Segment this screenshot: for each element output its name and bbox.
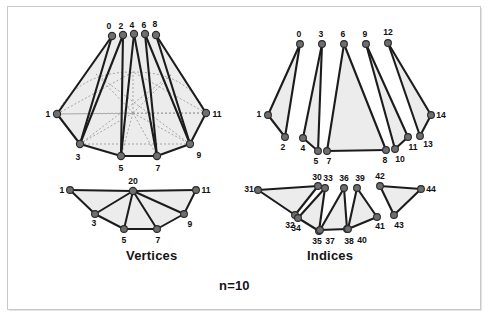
vertices-fan: 20 1 3 5 7 9 11 — [60, 176, 211, 245]
node-fan-9 — [181, 211, 188, 218]
label-vertex-0: 0 — [107, 21, 112, 31]
label-vertex-8: 8 — [153, 19, 158, 29]
label-index-10: 10 — [395, 154, 405, 164]
label-fan-9: 9 — [188, 219, 193, 229]
node-index-6 — [341, 41, 348, 48]
node-apex-6 — [141, 30, 148, 37]
label-fan-7: 7 — [156, 235, 161, 245]
caption-vertices: Vertices — [126, 248, 177, 263]
label-fan-1: 1 — [60, 185, 65, 195]
label-index-3: 3 — [319, 29, 324, 39]
label-index-14: 14 — [436, 110, 446, 120]
caption-indices: Indices — [307, 248, 353, 263]
label-index-41: 41 — [375, 221, 385, 231]
label-index-0: 0 — [297, 29, 302, 39]
geometry-diagram: 0 2 4 6 8 1 3 5 7 9 11 — [0, 0, 489, 318]
node-index-0 — [297, 41, 304, 48]
node-index-30 — [315, 183, 322, 190]
node-index-31 — [255, 187, 262, 194]
label-index-34: 34 — [291, 223, 301, 233]
node-fan-7 — [154, 226, 161, 233]
label-index-33: 33 — [323, 173, 333, 183]
node-fan-11 — [193, 187, 200, 194]
vertices-cone: 0 2 4 6 8 1 3 5 7 9 11 — [46, 19, 222, 173]
node-index-2 — [282, 134, 289, 141]
node-fan-3 — [92, 211, 99, 218]
node-fan-20 — [129, 187, 136, 194]
label-index-31: 31 — [244, 184, 254, 194]
node-ring-7 — [153, 152, 160, 159]
node-index-4 — [300, 135, 307, 142]
node-index-42 — [377, 183, 384, 190]
label-index-44: 44 — [426, 184, 436, 194]
node-index-1 — [265, 112, 272, 119]
label-index-8: 8 — [383, 155, 388, 165]
caption-n-value: n=10 — [219, 278, 250, 293]
node-index-39 — [354, 185, 361, 192]
label-index-39: 39 — [355, 173, 365, 183]
node-index-43 — [391, 212, 398, 219]
label-index-1: 1 — [257, 109, 262, 119]
node-index-9 — [363, 41, 370, 48]
label-fan-20: 20 — [128, 176, 138, 186]
node-ring-3 — [76, 140, 83, 147]
node-index-12 — [385, 40, 392, 47]
label-fan-3: 3 — [92, 218, 97, 228]
node-index-37 — [317, 227, 324, 234]
label-index-7: 7 — [327, 156, 332, 166]
node-index-11 — [405, 134, 412, 141]
label-fan-5: 5 — [122, 235, 127, 245]
node-ring-9 — [186, 140, 193, 147]
label-index-36: 36 — [339, 173, 349, 183]
node-index-5 — [315, 148, 322, 155]
label-index-5: 5 — [314, 156, 319, 166]
node-apex-0 — [108, 32, 115, 39]
label-vertex-6: 6 — [142, 20, 147, 30]
label-vertex-9: 9 — [197, 150, 202, 160]
node-index-8 — [383, 147, 390, 154]
node-apex-4 — [130, 30, 137, 37]
label-vertex-3: 3 — [76, 152, 81, 162]
label-index-37: 37 — [325, 236, 335, 246]
node-ring-11 — [202, 109, 209, 116]
label-index-9: 9 — [363, 29, 368, 39]
indices-cone: 0 3 6 9 12 1 2 4 5 7 8 10 11 13 14 — [257, 27, 446, 166]
label-index-35: 35 — [312, 236, 322, 246]
node-apex-2 — [119, 31, 126, 38]
node-index-41 — [374, 214, 381, 221]
label-vertex-2: 2 — [119, 21, 124, 31]
label-index-13: 13 — [423, 139, 433, 149]
figure-page: 0 2 4 6 8 1 3 5 7 9 11 — [0, 0, 489, 318]
node-ring-1 — [53, 110, 60, 117]
node-fan-5 — [121, 226, 128, 233]
indices-fan: 31 30 32 33 34 35 36 37 38 39 40 41 42 4… — [244, 171, 436, 246]
node-index-3 — [319, 41, 326, 48]
label-index-38: 38 — [344, 236, 354, 246]
node-index-7 — [324, 148, 331, 155]
node-index-40 — [345, 226, 352, 233]
label-vertex-4: 4 — [130, 20, 135, 30]
node-apex-8 — [152, 31, 159, 38]
node-index-34 — [295, 215, 302, 222]
node-index-33 — [322, 185, 329, 192]
label-index-43: 43 — [394, 220, 404, 230]
label-vertex-5: 5 — [119, 163, 124, 173]
label-index-30: 30 — [312, 172, 322, 182]
node-index-10 — [392, 146, 399, 153]
node-index-14 — [428, 112, 435, 119]
node-ring-5 — [117, 152, 124, 159]
label-index-2: 2 — [281, 142, 286, 152]
node-index-36 — [341, 185, 348, 192]
label-fan-11: 11 — [201, 185, 210, 195]
label-index-12: 12 — [383, 27, 393, 37]
node-index-44 — [418, 186, 425, 193]
label-index-4: 4 — [301, 143, 306, 153]
node-fan-1 — [67, 187, 74, 194]
label-vertex-1: 1 — [46, 109, 51, 119]
label-index-40: 40 — [357, 235, 367, 245]
label-index-11: 11 — [408, 142, 417, 152]
label-vertex-11: 11 — [212, 109, 221, 119]
label-vertex-7: 7 — [156, 163, 161, 173]
label-index-42: 42 — [375, 171, 385, 181]
label-index-6: 6 — [341, 29, 346, 39]
